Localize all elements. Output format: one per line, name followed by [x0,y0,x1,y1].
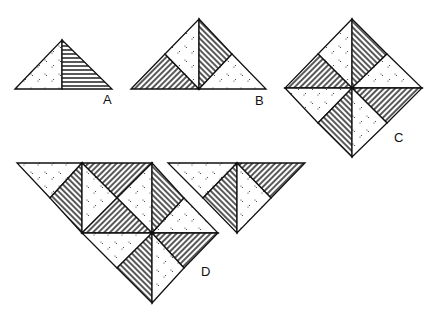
figure-b [131,19,266,89]
diagram-canvas: A B C D [0,0,438,310]
label-c: C [394,131,403,144]
label-b: B [255,94,264,107]
figure-a [15,40,112,89]
label-d: D [201,265,210,278]
label-a: A [103,93,112,106]
figure-d [17,163,218,303]
tangram-figure [0,0,438,310]
